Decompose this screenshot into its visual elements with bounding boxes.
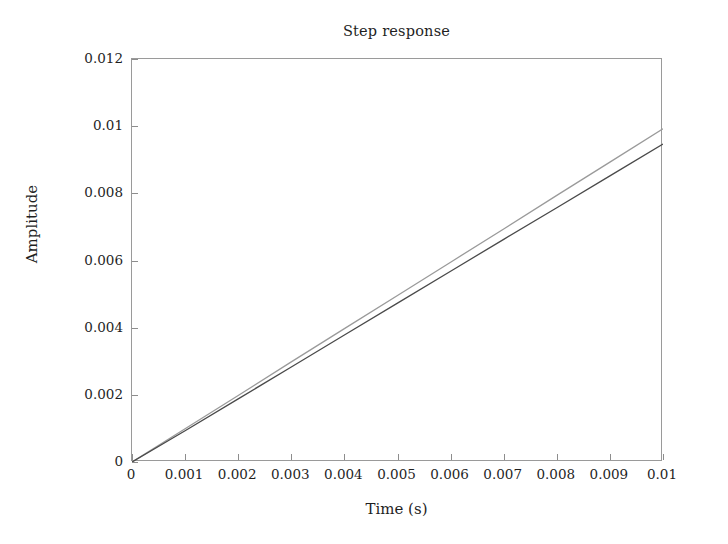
x-tick [610,454,611,460]
y-tick [132,59,138,60]
x-tick-label: 0.01 [647,466,677,482]
chart-title: Step response [131,22,662,40]
x-tick [504,454,505,460]
x-tick-label: 0 [127,466,136,482]
y-tick [132,261,138,262]
y-tick-label: 0.012 [3,50,123,66]
x-tick [344,454,345,460]
x-tick-label: 0.003 [271,466,310,482]
x-tick [185,454,186,460]
x-tick-label: 0.008 [536,466,575,482]
y-tick-label: 0.002 [3,386,123,402]
x-tick [291,454,292,460]
y-tick [132,193,138,194]
x-tick [238,454,239,460]
x-tick-label: 0.006 [430,466,469,482]
y-tick [132,328,138,329]
y-tick-label: 0.01 [3,117,123,133]
x-tick-label: 0.007 [483,466,522,482]
x-tick-label: 0.009 [590,466,629,482]
y-tick-label: 0 [3,453,123,469]
x-tick-label: 0.002 [218,466,257,482]
plot-area [131,58,662,461]
x-tick [451,454,452,460]
x-tick-label: 0.001 [165,466,204,482]
y-tick-label: 0.008 [3,184,123,200]
x-tick [557,454,558,460]
step-response-figure: Step response 00.0010.0020.0030.0040.005… [0,0,728,544]
y-tick [132,126,138,127]
y-tick-label: 0.004 [3,319,123,335]
x-tick [398,454,399,460]
y-tick [132,462,138,463]
x-tick [132,454,133,460]
x-tick-label: 0.004 [324,466,363,482]
series-upper-response [132,129,663,462]
x-tick-label: 0.005 [377,466,416,482]
y-tick [132,395,138,396]
x-tick [663,454,664,460]
plot-lines [132,59,663,462]
y-tick-label: 0.006 [3,252,123,268]
series-lower-response [132,144,663,462]
y-axis-label: Amplitude [23,154,41,294]
x-axis-label: Time (s) [131,500,662,518]
